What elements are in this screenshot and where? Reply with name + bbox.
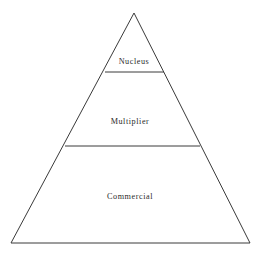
tier-label-multiplier: Multiplier [111, 117, 150, 126]
pyramid-outline [11, 13, 250, 243]
pyramid-diagram: Nucleus Multiplier Commercial [0, 0, 255, 255]
pyramid-svg: Nucleus Multiplier Commercial [0, 0, 255, 255]
tier-label-nucleus: Nucleus [119, 57, 150, 66]
tier-label-commercial: Commercial [107, 192, 153, 201]
